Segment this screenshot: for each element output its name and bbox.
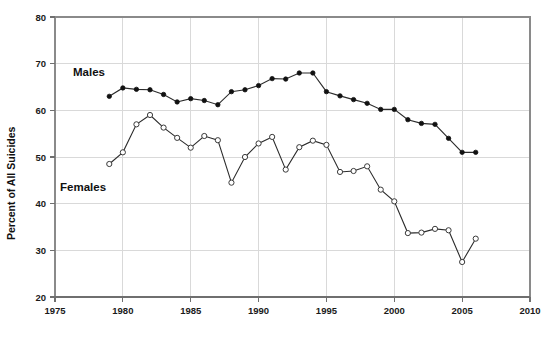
data-point-males: [161, 92, 165, 96]
data-point-males: [148, 88, 152, 92]
data-point-females: [270, 134, 275, 139]
data-point-females: [324, 142, 329, 147]
data-point-males: [351, 97, 355, 101]
data-point-males: [189, 96, 193, 100]
data-point-females: [351, 168, 356, 173]
data-point-females: [473, 236, 478, 241]
data-point-males: [365, 101, 369, 105]
data-point-females: [188, 145, 193, 150]
data-point-males: [446, 136, 450, 140]
y-axis-tick-marks: [50, 17, 55, 297]
data-point-males: [216, 103, 220, 107]
x-tick-label: 2010: [519, 305, 540, 316]
data-point-females: [120, 150, 125, 155]
data-point-females: [405, 230, 410, 235]
data-point-females: [107, 161, 112, 166]
data-point-males: [202, 98, 206, 102]
data-point-females: [378, 187, 383, 192]
y-tick-label: 50: [35, 152, 46, 163]
y-tick-label: 20: [35, 292, 46, 303]
data-point-females: [392, 199, 397, 204]
data-point-males: [433, 122, 437, 126]
data-point-females: [446, 228, 451, 233]
data-point-females: [161, 125, 166, 130]
data-point-females: [256, 141, 261, 146]
y-tick-label: 60: [35, 105, 46, 116]
data-point-males: [406, 117, 410, 121]
series-label-females: Females: [60, 181, 106, 193]
x-tick-label: 2005: [452, 305, 474, 316]
y-tick-label: 40: [35, 198, 46, 209]
x-axis-tick-marks: [55, 297, 530, 302]
data-point-females: [215, 138, 220, 143]
data-point-males: [175, 100, 179, 104]
x-tick-label: 2000: [384, 305, 405, 316]
data-point-females: [147, 112, 152, 117]
data-point-females: [337, 169, 342, 174]
data-point-males: [338, 94, 342, 98]
data-point-females: [283, 167, 288, 172]
suicide-percent-line-chart: 19751980198519901995200020052010 2030405…: [0, 0, 559, 339]
data-point-females: [175, 135, 180, 140]
data-point-males: [284, 77, 288, 81]
data-point-females: [242, 154, 247, 159]
data-point-females: [310, 138, 315, 143]
x-axis-tick-labels: 19751980198519901995200020052010: [44, 305, 540, 316]
data-point-males: [270, 76, 274, 80]
data-point-males: [229, 89, 233, 93]
data-point-males: [311, 71, 315, 75]
data-point-males: [460, 150, 464, 154]
x-tick-label: 1995: [316, 305, 338, 316]
data-point-females: [134, 122, 139, 127]
y-axis-tick-labels: 20304050607080: [35, 12, 46, 303]
x-tick-label: 1990: [248, 305, 269, 316]
series-label-males: Males: [73, 66, 105, 78]
y-axis-title: Percent of All Suicides: [5, 126, 17, 240]
x-tick-label: 1975: [44, 305, 66, 316]
data-point-males: [107, 94, 111, 98]
data-point-females: [432, 226, 437, 231]
x-tick-label: 1980: [112, 305, 133, 316]
data-point-males: [243, 88, 247, 92]
data-point-males: [297, 71, 301, 75]
data-point-males: [256, 83, 260, 87]
data-point-males: [134, 87, 138, 91]
data-point-females: [202, 133, 207, 138]
y-tick-label: 80: [35, 12, 46, 23]
data-point-females: [419, 230, 424, 235]
data-point-males: [419, 121, 423, 125]
data-point-females: [365, 164, 370, 169]
data-point-females: [229, 180, 234, 185]
y-tick-label: 30: [35, 245, 46, 256]
data-point-females: [460, 259, 465, 264]
x-tick-label: 1985: [180, 305, 202, 316]
y-tick-label: 70: [35, 58, 46, 69]
data-point-females: [297, 145, 302, 150]
data-point-males: [324, 89, 328, 93]
data-point-males: [474, 150, 478, 154]
data-point-males: [121, 86, 125, 90]
data-point-males: [392, 107, 396, 111]
chart-container: 19751980198519901995200020052010 2030405…: [0, 0, 559, 339]
data-point-males: [379, 107, 383, 111]
